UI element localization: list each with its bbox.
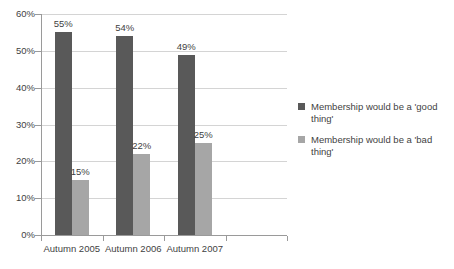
bar-value-label: 22% [127, 141, 156, 151]
x-axis-tick [41, 236, 42, 241]
bar-value-label: 49% [172, 42, 201, 52]
x-axis-tick [164, 236, 165, 241]
y-axis-tick [35, 161, 41, 162]
bar [178, 55, 195, 235]
y-axis-tick [35, 14, 41, 15]
x-axis-category-label: Autumn 2005 [41, 243, 103, 254]
y-axis-tick-label: 60% [2, 9, 35, 19]
y-axis-tick [35, 51, 41, 52]
bar-value-label: 25% [189, 130, 218, 140]
y-axis-tick-label: 50% [2, 46, 35, 56]
y-axis-tick-label: 30% [2, 120, 35, 130]
y-axis-tick [35, 198, 41, 199]
chart-legend: Membership would be a 'good thing'Member… [298, 101, 450, 167]
bar-value-label: 54% [110, 23, 139, 33]
bar-chart: 60%50%40%30%20%10%0% Autumn 2005Autumn 2… [0, 0, 454, 269]
bar-value-label: 55% [49, 19, 78, 29]
bar [195, 143, 212, 235]
y-axis-tick-label: 40% [2, 83, 35, 93]
bar [116, 36, 133, 235]
y-axis-tick [35, 88, 41, 89]
x-axis-tick [287, 236, 288, 241]
bar [133, 154, 150, 235]
legend-item[interactable]: Membership would be a 'bad thing' [298, 134, 450, 158]
x-axis-tick [103, 236, 104, 241]
x-axis-category-label: Autumn 2006 [103, 243, 165, 254]
bar [72, 180, 89, 235]
bar [55, 32, 72, 235]
x-axis-tick [226, 236, 227, 241]
y-axis-tick-label: 10% [2, 193, 35, 203]
legend-item-label: Membership would be a 'good thing' [311, 101, 437, 124]
x-axis-category-label: Autumn 2007 [164, 243, 226, 254]
legend-item[interactable]: Membership would be a 'good thing' [298, 101, 450, 125]
legend-swatch-icon [298, 136, 305, 143]
y-axis-tick-label: 0% [2, 230, 35, 240]
legend-swatch-icon [298, 103, 305, 110]
y-axis-tick-label: 20% [2, 156, 35, 166]
legend-item-label: Membership would be a 'bad thing' [311, 134, 432, 157]
bar-value-label: 15% [66, 167, 95, 177]
y-axis-tick [35, 125, 41, 126]
